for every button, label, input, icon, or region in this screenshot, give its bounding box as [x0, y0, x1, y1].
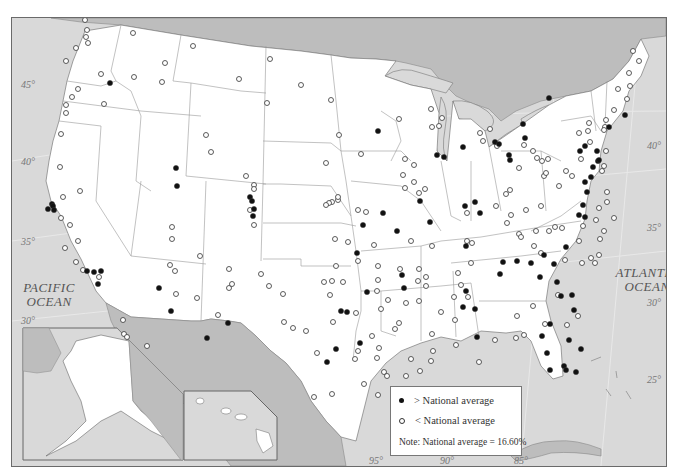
city-marker-below: [291, 326, 296, 331]
city-marker-below: [376, 278, 381, 283]
city-marker-above: [577, 148, 582, 153]
city-marker-below: [509, 213, 514, 218]
city-marker-above: [573, 369, 578, 374]
city-marker-below: [354, 311, 359, 316]
city-marker-below: [605, 200, 610, 205]
city-marker-below: [174, 292, 179, 297]
city-marker-above: [427, 219, 432, 224]
city-marker-above: [539, 333, 544, 338]
filled-dot-icon: [399, 398, 404, 403]
city-marker-below: [594, 218, 599, 223]
city-marker-below: [429, 107, 434, 112]
city-marker-below: [356, 208, 361, 213]
city-marker-below: [304, 329, 309, 334]
city-marker-above: [434, 152, 439, 157]
city-marker-below: [379, 307, 384, 312]
city-marker-below: [409, 357, 414, 362]
city-marker-below: [535, 156, 540, 161]
city-marker-below: [431, 349, 436, 354]
city-marker-below: [543, 322, 548, 327]
city-marker-above: [250, 213, 255, 218]
city-marker-below: [577, 131, 582, 136]
city-marker-below: [519, 235, 524, 240]
city-marker-above: [364, 289, 369, 294]
city-marker-above: [204, 335, 209, 340]
city-marker-below: [168, 263, 173, 268]
city-marker-below: [195, 296, 200, 301]
pacific-ocean-label: PACIFIC OCEAN: [19, 281, 79, 309]
city-marker-below: [539, 204, 544, 209]
city-marker-below: [470, 241, 475, 246]
city-marker-above: [156, 285, 161, 290]
city-marker-below: [430, 125, 435, 130]
lon-label-95: 95°: [369, 455, 383, 466]
city-marker-above: [544, 350, 549, 355]
city-marker-below: [230, 282, 235, 287]
us-map: [12, 18, 666, 466]
city-marker-below: [560, 226, 565, 231]
city-marker-below: [370, 334, 375, 339]
city-marker-below: [64, 111, 69, 116]
city-marker-below: [531, 149, 536, 154]
city-marker-below: [564, 169, 569, 174]
city-marker-below: [97, 275, 102, 280]
city-marker-below: [598, 237, 603, 242]
city-marker-below: [416, 279, 421, 284]
city-marker-below: [173, 269, 178, 274]
city-marker-below: [63, 246, 68, 251]
city-marker-above: [578, 346, 583, 351]
city-marker-below: [376, 264, 381, 269]
city-marker-below: [505, 221, 510, 226]
city-marker-below: [398, 267, 403, 272]
city-marker-below: [508, 188, 513, 193]
city-marker-above: [514, 258, 519, 263]
city-marker-below: [579, 157, 584, 162]
city-marker-below: [417, 191, 422, 196]
city-marker-below: [76, 239, 81, 244]
city-marker-below: [418, 369, 423, 374]
city-marker-below: [170, 237, 175, 242]
city-marker-below: [336, 195, 341, 200]
city-marker-below: [465, 239, 470, 244]
city-marker-below: [597, 206, 602, 211]
city-marker-above: [394, 228, 399, 233]
city-marker-below: [329, 98, 334, 103]
city-marker-below: [328, 293, 333, 298]
city-marker-below: [637, 59, 642, 64]
city-marker-below: [440, 116, 445, 121]
city-marker-above: [225, 320, 230, 325]
city-marker-above: [174, 183, 179, 188]
city-marker-above: [571, 307, 576, 312]
city-marker-below: [324, 161, 329, 166]
city-marker-below: [252, 223, 257, 228]
city-marker-below: [85, 28, 90, 33]
city-marker-below: [59, 216, 64, 221]
city-marker-below: [481, 139, 486, 144]
city-marker-below: [531, 304, 536, 309]
city-marker-below: [612, 108, 617, 113]
city-marker-below: [430, 244, 435, 249]
city-marker-below: [593, 261, 598, 266]
lat-label-25-east: 25°: [647, 374, 661, 385]
city-marker-below: [102, 102, 107, 107]
city-marker-above: [522, 135, 527, 140]
city-marker-below: [488, 127, 493, 132]
city-marker-below: [331, 320, 336, 325]
city-marker-above: [563, 244, 568, 249]
city-marker-above: [507, 157, 512, 162]
city-marker-below: [534, 229, 539, 234]
city-marker-above: [554, 279, 559, 284]
city-marker-below: [145, 344, 150, 349]
city-marker-above: [477, 210, 482, 215]
city-marker-below: [132, 75, 137, 80]
city-marker-above: [506, 152, 511, 157]
city-marker-above: [622, 112, 627, 117]
city-marker-above: [576, 212, 581, 217]
city-marker-above: [98, 268, 103, 273]
city-marker-below: [61, 195, 66, 200]
city-marker-below: [59, 132, 64, 137]
city-marker-below: [281, 292, 286, 297]
lat-label-40-west: 40°: [21, 156, 35, 167]
legend-below-label: < National average: [415, 415, 495, 426]
legend-row-below: < National average: [399, 415, 495, 426]
